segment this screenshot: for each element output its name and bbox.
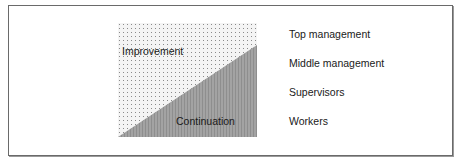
level-top-management: Top management — [289, 28, 370, 40]
level-workers: Workers — [289, 115, 328, 127]
continuation-label: Continuation — [176, 115, 235, 127]
level-supervisors: Supervisors — [289, 86, 344, 98]
improvement-label: Improvement — [122, 45, 183, 57]
level-middle-management: Middle management — [289, 57, 384, 69]
